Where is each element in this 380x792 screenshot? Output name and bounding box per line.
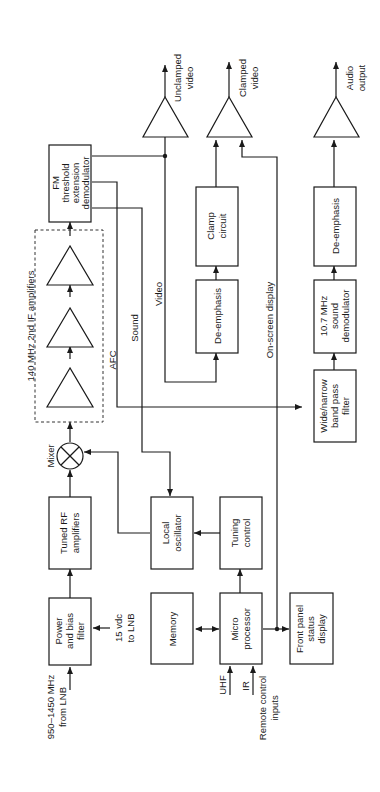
unclamped-label-1: Unclamped [172,54,183,102]
remote-label-1: Remote control [257,676,268,740]
power-filter-label-2: and bias [64,613,75,649]
remote-label-2: inputs [269,695,280,721]
if-amplifier-2 [47,308,93,347]
video-label: Video [153,282,164,306]
afc-label: AFC [107,350,118,369]
clamped-video-amplifier [207,97,252,137]
front-panel-label-3: display [316,614,327,644]
clamped-label-1: Clamped [237,59,248,97]
fm-demod-label-4: demodulator [80,157,91,210]
uhf-label: UHF [217,675,228,695]
video-de-emphasis-label: De-emphasis [212,288,223,344]
bandpass-label-3: filter [340,397,351,415]
sound-demod-label-2: sound [329,303,340,329]
bandpass-label-2: band pass [329,384,340,428]
front-panel-label-2: status [305,616,316,642]
ir-label: IR [240,681,251,691]
mixer-label: Mixer [45,444,56,467]
vdc-label-2: to LNB [125,613,136,642]
osd-label: On-screen display [264,281,275,358]
audio-label-2: output [356,64,367,91]
input-label-2: from LNB [57,687,68,727]
clamp-label-1: Clamp [205,212,216,239]
block-diagram: Power and bias filter Tuned RF amplifier… [0,0,380,792]
microprocessor-label-2: processor [241,608,252,650]
microprocessor-label-1: Micro [229,617,240,640]
local-osc-label-2: oscillator [172,514,183,552]
sound-label: Sound [129,314,140,341]
tuning-control-label-1: Tuning [229,519,240,548]
mixer-symbol [57,443,83,469]
tuned-rf-label-1: Tuned RF [58,512,69,554]
power-filter-label-3: filter [75,622,86,640]
audio-de-emphasis-label: De-emphasis [330,198,341,254]
bandpass-label-1: Wide/narrow [318,379,329,432]
audio-amplifier [314,97,359,137]
power-filter-label-1: Power [53,618,64,645]
front-panel-label-1: Front panel [294,605,305,653]
tuned-rf-label-2: amplifiers [70,512,81,553]
input-label-1: 950–1450 MHz [45,675,56,740]
if-amplifier-3 [47,368,93,407]
if-group-label: 140 MHz 2nd IF amplifiers [25,270,36,381]
memory-label: Memory [167,612,178,647]
tuning-control-label-2: control [241,519,252,548]
vdc-label-1: 15 vdc [113,614,124,642]
clamp-label-2: circuit [217,213,228,238]
if-amplifier-1 [47,246,93,285]
audio-label-1: Audio [344,66,355,90]
clamped-label-2: video [249,67,260,90]
local-osc-label-1: Local [160,522,171,545]
sound-demod-label-3: demodulator [340,290,351,343]
sound-demod-label-1: 10.7 MHz [318,295,329,336]
unclamped-label-2: video [184,67,195,90]
